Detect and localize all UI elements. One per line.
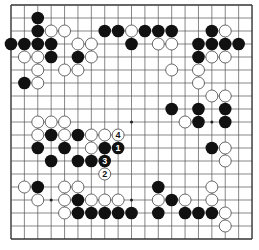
black-stone xyxy=(125,38,138,51)
white-stone xyxy=(85,142,97,154)
white-stone xyxy=(32,116,44,128)
black-stone xyxy=(179,207,192,220)
white-stone xyxy=(32,77,44,89)
star-point xyxy=(210,121,213,124)
white-stone xyxy=(45,116,57,128)
black-stone xyxy=(219,116,232,129)
black-stone xyxy=(165,103,178,116)
white-stone xyxy=(85,38,97,50)
move-number-label: 1 xyxy=(116,143,121,153)
white-stone xyxy=(179,116,191,128)
black-stone xyxy=(31,142,44,155)
white-stone xyxy=(206,51,218,63)
white-stone xyxy=(219,51,231,63)
white-stone xyxy=(206,90,218,102)
star-point xyxy=(50,199,53,202)
black-stone xyxy=(165,25,178,38)
white-stone xyxy=(85,129,97,141)
white-stone xyxy=(152,194,164,206)
white-stone xyxy=(32,51,44,63)
white-stone xyxy=(72,181,84,193)
white-stone xyxy=(59,181,71,193)
black-stone xyxy=(192,103,205,116)
black-stone xyxy=(45,155,58,168)
black-stone xyxy=(18,77,31,90)
white-stone xyxy=(18,181,30,193)
black-stone xyxy=(31,38,44,51)
black-stone xyxy=(98,207,111,220)
white-stone xyxy=(219,207,231,219)
black-stone xyxy=(125,207,138,220)
white-stone xyxy=(206,194,218,206)
black-stone xyxy=(152,181,165,194)
move-number-label: 3 xyxy=(102,156,107,166)
white-stone xyxy=(72,38,84,50)
white-stone xyxy=(59,116,71,128)
white-stone xyxy=(206,181,218,193)
white-stone xyxy=(85,51,97,63)
white-stone xyxy=(126,25,138,37)
black-stone xyxy=(72,129,85,142)
black-stone xyxy=(72,194,85,207)
black-stone xyxy=(206,25,219,38)
white-stone xyxy=(219,155,231,167)
black-stone xyxy=(85,155,98,168)
white-stone xyxy=(59,129,71,141)
white-stone xyxy=(59,207,71,219)
move-number-label: 2 xyxy=(102,169,107,179)
black-stone xyxy=(192,207,205,220)
black-stone xyxy=(85,207,98,220)
black-stone xyxy=(112,25,125,38)
black-stone xyxy=(192,38,205,51)
black-stone xyxy=(206,38,219,51)
white-stone xyxy=(45,25,57,37)
white-stone xyxy=(179,194,191,206)
white-stone xyxy=(219,142,231,154)
black-stone xyxy=(112,207,125,220)
white-stone xyxy=(59,25,71,37)
black-stone xyxy=(165,194,178,207)
white-stone xyxy=(152,38,164,50)
black-stone xyxy=(72,51,85,64)
black-stone xyxy=(152,207,165,220)
black-stone xyxy=(31,181,44,194)
black-stone xyxy=(31,12,44,25)
black-stone xyxy=(232,38,245,51)
black-stone xyxy=(206,207,219,220)
white-stone xyxy=(59,194,71,206)
black-stone xyxy=(206,142,219,155)
white-stone xyxy=(99,194,111,206)
white-stone xyxy=(85,194,97,206)
white-stone xyxy=(32,194,44,206)
black-stone xyxy=(58,142,71,155)
black-stone xyxy=(18,38,31,51)
black-stone xyxy=(219,103,232,116)
black-stone xyxy=(139,25,152,38)
black-stone xyxy=(5,38,18,51)
black-stone xyxy=(45,38,58,51)
black-stone xyxy=(192,116,205,129)
star-point xyxy=(130,121,133,124)
black-stone xyxy=(72,207,85,220)
black-stone xyxy=(219,38,232,51)
white-stone xyxy=(219,90,231,102)
white-stone xyxy=(59,64,71,76)
white-stone xyxy=(99,129,111,141)
white-stone xyxy=(166,38,178,50)
white-stone xyxy=(219,25,231,37)
white-stone xyxy=(192,77,204,89)
black-stone xyxy=(72,155,85,168)
black-stone xyxy=(192,51,205,64)
white-stone xyxy=(192,64,204,76)
black-stone xyxy=(98,25,111,38)
black-stone xyxy=(31,25,44,38)
black-stone xyxy=(45,51,58,64)
go-board: 1234 xyxy=(0,0,259,250)
white-stone xyxy=(32,64,44,76)
black-stone xyxy=(98,142,111,155)
black-stone xyxy=(45,129,58,142)
white-stone xyxy=(112,194,124,206)
move-number-label: 4 xyxy=(116,130,121,140)
white-stone xyxy=(219,220,231,232)
white-stone xyxy=(72,64,84,76)
